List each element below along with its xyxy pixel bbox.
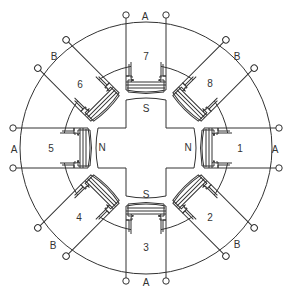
rotor-pole-right-label: N [184, 142, 191, 153]
terminal-icon [276, 165, 282, 171]
phase-label-bottom-right: B [234, 239, 241, 250]
stepper-motor-diagram: S S N N 1 2 3 4 5 6 7 8 A A A A B B B B [0, 0, 291, 295]
rotor-pole-bottom-label: S [143, 189, 150, 200]
pole-number-6: 6 [77, 79, 83, 90]
stator-pole-2 [168, 170, 259, 261]
stator-pole-8 [168, 35, 259, 126]
pole-number-2: 2 [207, 212, 213, 223]
terminal-icon [276, 125, 282, 131]
pole-number-3: 3 [143, 242, 149, 253]
pole-number-5: 5 [48, 143, 54, 154]
terminal-icon [10, 125, 16, 131]
phase-label-bottom: A [143, 277, 150, 288]
terminal-icon [123, 278, 129, 284]
terminal-icon [163, 12, 169, 18]
phase-label-top: A [142, 11, 149, 22]
pole-number-1: 1 [237, 143, 243, 154]
pole-number-8: 8 [207, 78, 213, 89]
terminal-icon [123, 12, 129, 18]
phase-label-top-left: B [51, 51, 58, 62]
phase-label-left: A [11, 144, 18, 155]
terminal-icon [163, 278, 169, 284]
phase-label-right: A [272, 144, 279, 155]
pole-number-7: 7 [143, 51, 149, 62]
phase-label-bottom-left: B [50, 240, 57, 251]
terminal-icon [10, 165, 16, 171]
rotor-pole-left-label: N [98, 142, 105, 153]
rotor-pole-top-label: S [143, 103, 150, 114]
phase-label-top-right: B [234, 51, 241, 62]
pole-number-4: 4 [76, 212, 82, 223]
